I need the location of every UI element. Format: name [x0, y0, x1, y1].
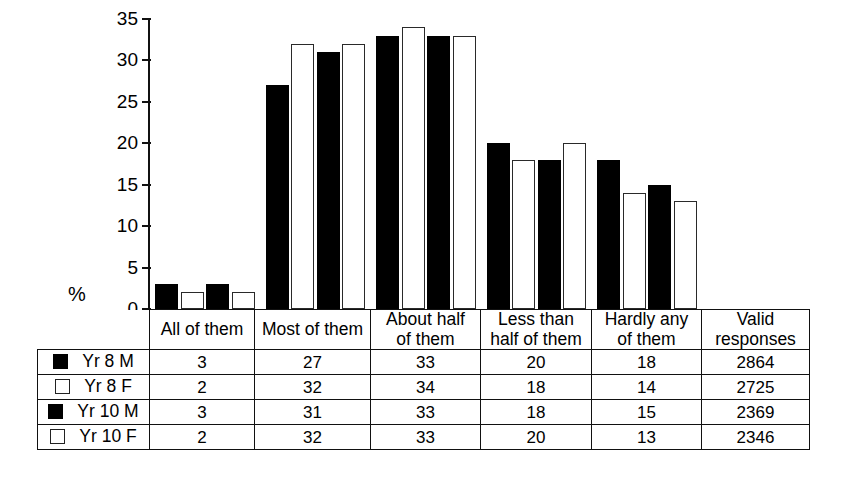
y-tick-label-35: 35	[117, 8, 138, 30]
plot-area	[150, 19, 702, 309]
data-table: All of themMost of themAbout halfof them…	[37, 309, 810, 450]
bar-group	[150, 19, 260, 309]
y-axis-unit-label: %	[68, 283, 86, 306]
table-cell: 2864	[702, 350, 810, 375]
table-cell: 18	[481, 400, 592, 425]
header-line-2: of them	[592, 330, 701, 350]
legend-row-label: Yr 10 M	[38, 400, 150, 425]
bar-chart-figure: 35 30 25 20 15 10 5 0 %	[0, 0, 849, 481]
table-cell: 33	[371, 400, 481, 425]
bar	[648, 185, 671, 309]
header-line-1: Less than	[481, 310, 591, 330]
table-cell: 34	[371, 375, 481, 400]
bar	[512, 160, 535, 309]
table-column-header: Most of them	[255, 310, 371, 350]
header-line-1: Most of them	[255, 320, 370, 340]
table-cell: 3	[150, 350, 255, 375]
table-cell: 15	[592, 400, 702, 425]
header-line-2: of them	[371, 330, 480, 350]
table-header-row: All of themMost of themAbout halfof them…	[38, 310, 810, 350]
bar	[317, 52, 340, 309]
bar	[181, 292, 204, 309]
filled-square-icon	[53, 354, 68, 369]
table-row[interactable]: Yr 10 M3313318152369	[38, 400, 810, 425]
bar	[597, 160, 620, 309]
legend-header-spacer	[38, 310, 150, 350]
bar	[291, 44, 314, 309]
series-name: Yr 8 M	[82, 351, 134, 371]
legend-row-label: Yr 8 M	[38, 350, 150, 375]
bar	[402, 27, 425, 309]
table-column-header: Hardly anyof them	[592, 310, 702, 350]
table-cell: 33	[371, 350, 481, 375]
table-cell: 14	[592, 375, 702, 400]
bar	[266, 85, 289, 309]
table-column-header: Validresponses	[702, 310, 810, 350]
filled-square-icon	[48, 404, 63, 419]
table-cell: 13	[592, 425, 702, 450]
table-cell: 18	[481, 375, 592, 400]
table-column-header: Less thanhalf of them	[481, 310, 592, 350]
table-cell: 27	[255, 350, 371, 375]
table-cell: 33	[371, 425, 481, 450]
bar	[563, 143, 586, 309]
series-name: Yr 10 M	[77, 401, 138, 421]
bar	[674, 201, 697, 309]
table-cell: 3	[150, 400, 255, 425]
header-line-1: About half	[371, 310, 480, 330]
header-line-2: responses	[702, 330, 809, 350]
series-name: Yr 10 F	[79, 426, 136, 446]
y-tick-label-5: 5	[127, 257, 138, 279]
table-cell: 2	[150, 375, 255, 400]
table-cell: 31	[255, 400, 371, 425]
header-line-1: Valid	[702, 310, 809, 330]
bar	[376, 36, 399, 309]
series-name: Yr 8 F	[84, 376, 132, 396]
table-cell: 2725	[702, 375, 810, 400]
table-cell: 32	[255, 375, 371, 400]
bar-group	[592, 19, 702, 309]
table-row[interactable]: Yr 10 F2323320132346	[38, 425, 810, 450]
table-cell: 18	[592, 350, 702, 375]
table-cell: 2	[150, 425, 255, 450]
bar	[538, 160, 561, 309]
bar	[623, 193, 646, 309]
table-cell: 20	[481, 350, 592, 375]
y-tick-label-20: 20	[117, 132, 138, 154]
y-tick-label-25: 25	[117, 91, 138, 113]
y-tick-label-30: 30	[117, 49, 138, 71]
bar	[232, 292, 255, 309]
header-line-1: All of them	[150, 320, 254, 340]
table-cell: 20	[481, 425, 592, 450]
bar-group	[260, 19, 370, 309]
bar	[155, 284, 178, 309]
bar	[427, 36, 450, 309]
bar-group	[371, 19, 481, 309]
y-tick-label-10: 10	[117, 215, 138, 237]
bar-group	[481, 19, 591, 309]
bar	[487, 143, 510, 309]
table-cell: 32	[255, 425, 371, 450]
open-square-icon	[50, 429, 65, 444]
bar	[453, 36, 476, 309]
table-column-header: All of them	[150, 310, 255, 350]
bar	[206, 284, 229, 309]
y-axis: 35 30 25 20 15 10 5 0	[100, 14, 152, 314]
table-column-header: About halfof them	[371, 310, 481, 350]
header-line-2: half of them	[481, 330, 591, 350]
data-table-wrapper: All of themMost of themAbout halfof them…	[37, 309, 809, 461]
header-line-1: Hardly any	[592, 310, 701, 330]
table-row[interactable]: Yr 8 F2323418142725	[38, 375, 810, 400]
open-square-icon	[55, 379, 70, 394]
legend-row-label: Yr 10 F	[38, 425, 150, 450]
bar	[342, 44, 365, 309]
table-cell: 2369	[702, 400, 810, 425]
y-tick-label-15: 15	[117, 174, 138, 196]
legend-row-label: Yr 8 F	[38, 375, 150, 400]
table-row[interactable]: Yr 8 M3273320182864	[38, 350, 810, 375]
table-cell: 2346	[702, 425, 810, 450]
